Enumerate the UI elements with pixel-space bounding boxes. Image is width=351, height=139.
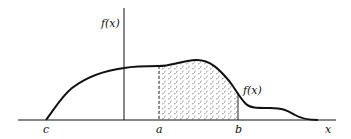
marker-b-label: b [235,123,242,136]
curve-label: f(x) [242,84,262,97]
y-axis-label: f(x) [100,17,120,30]
density-diagram: f(x) f(x) c a b x [0,0,351,139]
marker-c-label: c [43,123,49,136]
x-axis-label: x [325,123,332,136]
marker-a-label: a [156,123,163,136]
